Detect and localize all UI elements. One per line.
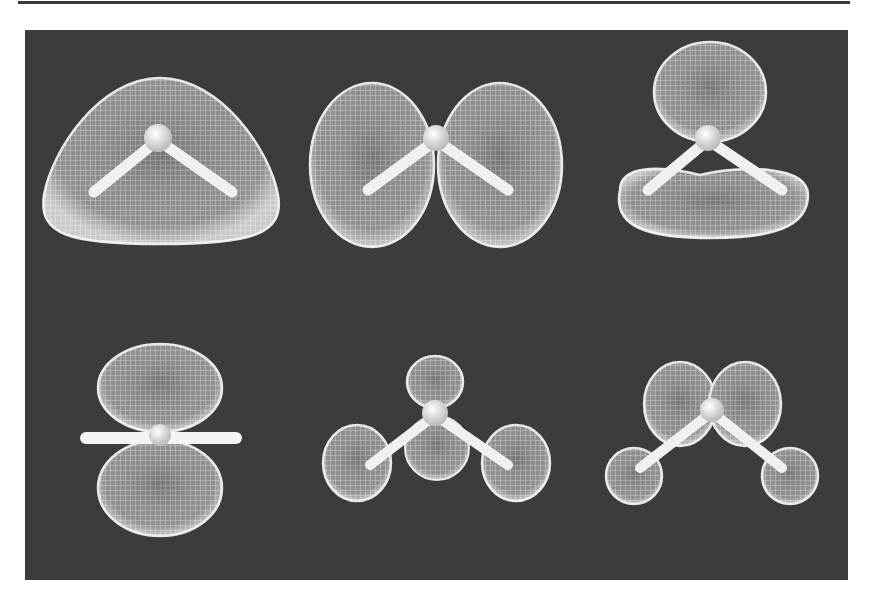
orbital-1	[43, 78, 279, 244]
orbital-5	[323, 356, 550, 501]
orbital-2	[310, 83, 562, 247]
orbital-6	[606, 362, 818, 504]
orbital-figure	[0, 0, 869, 606]
orbital-4	[86, 344, 236, 536]
orbital-3	[619, 42, 808, 238]
